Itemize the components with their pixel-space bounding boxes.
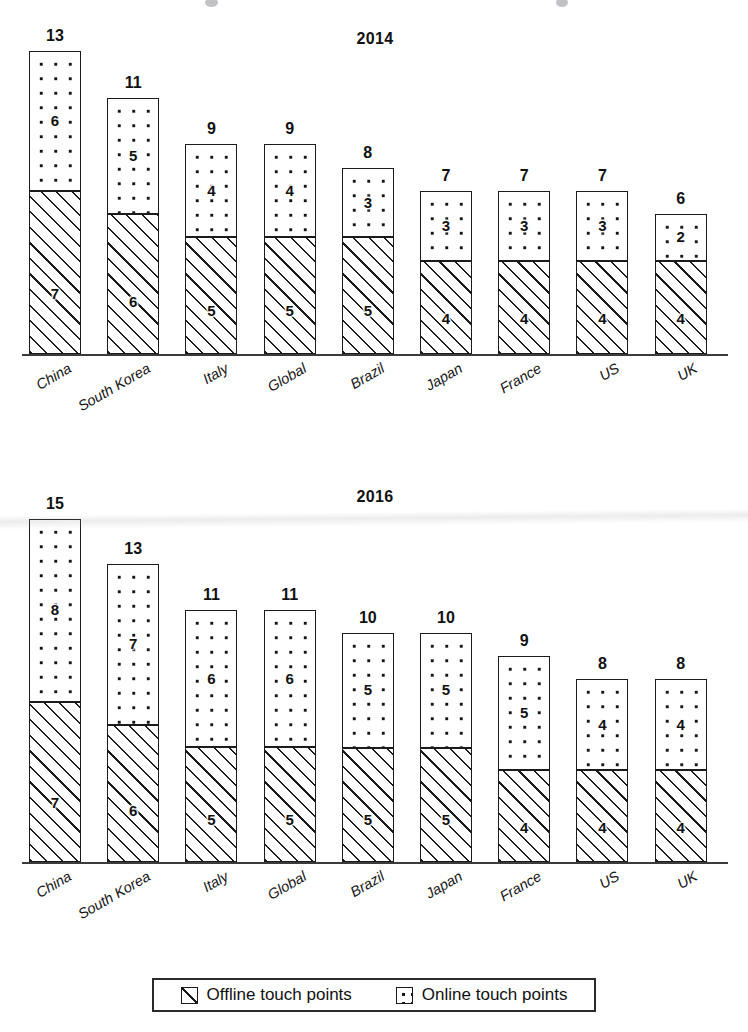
bar-global: 45 bbox=[264, 144, 316, 354]
chart-2014: 2014 6713China5611South Korea459Italy459… bbox=[0, 0, 748, 450]
chart-2016: 2016 8715China7613South Korea6511Italy65… bbox=[0, 470, 748, 920]
dot-square-icon bbox=[396, 987, 413, 1004]
bar-segment-online: 8 bbox=[29, 519, 81, 702]
bar-segment-offline-value: 4 bbox=[656, 819, 706, 836]
bar-total-label: 13 bbox=[107, 540, 159, 558]
bar-total-label: 7 bbox=[576, 167, 628, 185]
bar-segment-offline-value: 5 bbox=[186, 302, 236, 319]
bar-segment-online-value: 3 bbox=[421, 217, 471, 234]
bar-total-label: 10 bbox=[342, 609, 394, 627]
bar-segment-offline: 5 bbox=[342, 748, 394, 863]
bar-uk: 24 bbox=[655, 214, 707, 354]
bar-china: 67 bbox=[29, 51, 81, 354]
bar-total-label: 11 bbox=[107, 74, 159, 92]
bar-segment-offline: 4 bbox=[655, 261, 707, 354]
bar-segment-online-value: 3 bbox=[499, 217, 549, 234]
bar-italy: 65 bbox=[185, 610, 237, 862]
hatch-square-icon bbox=[181, 987, 198, 1004]
bar-total-label: 11 bbox=[185, 586, 237, 604]
bar-segment-offline: 7 bbox=[29, 702, 81, 862]
bar-brazil: 35 bbox=[342, 168, 394, 354]
bar-segment-online-value: 3 bbox=[577, 217, 627, 234]
chart-2016-axis bbox=[22, 862, 728, 864]
bar-total-label: 7 bbox=[420, 167, 472, 185]
bar-total-label: 9 bbox=[185, 120, 237, 138]
legend-label-offline: Offline touch points bbox=[207, 985, 352, 1005]
bar-segment-offline: 5 bbox=[185, 747, 237, 862]
bar-segment-online: 4 bbox=[655, 679, 707, 771]
bar-segment-online-value: 2 bbox=[656, 228, 706, 245]
bar-segment-offline: 6 bbox=[107, 214, 159, 354]
bar-segment-offline: 5 bbox=[264, 237, 316, 354]
bar-total-label: 9 bbox=[498, 632, 550, 650]
bar-total-label: 8 bbox=[342, 144, 394, 162]
bar-china: 87 bbox=[29, 519, 81, 863]
bar-segment-offline-value: 5 bbox=[265, 811, 315, 828]
bar-segment-offline: 4 bbox=[576, 770, 628, 862]
bar-segment-online-value: 6 bbox=[265, 670, 315, 687]
bar-segment-offline: 4 bbox=[655, 770, 707, 862]
bar-segment-offline: 4 bbox=[498, 770, 550, 862]
bar-france: 54 bbox=[498, 656, 550, 862]
bar-segment-offline: 4 bbox=[576, 261, 628, 354]
bar-uk: 44 bbox=[655, 679, 707, 862]
bar-segment-online: 6 bbox=[185, 610, 237, 747]
bar-segment-online-value: 4 bbox=[656, 716, 706, 733]
bar-global: 65 bbox=[264, 610, 316, 862]
bar-segment-offline-value: 4 bbox=[577, 310, 627, 327]
bar-segment-online: 5 bbox=[107, 98, 159, 215]
bar-italy: 45 bbox=[185, 144, 237, 354]
bar-segment-offline-value: 4 bbox=[499, 819, 549, 836]
bar-japan: 34 bbox=[420, 191, 472, 354]
bar-segment-offline-value: 7 bbox=[30, 285, 80, 302]
bar-total-label: 8 bbox=[655, 655, 707, 673]
bar-segment-online: 5 bbox=[498, 656, 550, 771]
bar-segment-offline-value: 4 bbox=[421, 310, 471, 327]
bar-brazil: 55 bbox=[342, 633, 394, 862]
bar-segment-offline-value: 4 bbox=[656, 310, 706, 327]
bar-segment-online-value: 5 bbox=[421, 681, 471, 698]
bar-total-label: 10 bbox=[420, 609, 472, 627]
bar-segment-online-value: 4 bbox=[577, 716, 627, 733]
bar-segment-offline: 7 bbox=[29, 191, 81, 354]
bar-segment-offline-value: 7 bbox=[30, 794, 80, 811]
bar-total-label: 11 bbox=[264, 586, 316, 604]
bar-total-label: 7 bbox=[498, 167, 550, 185]
bar-france: 34 bbox=[498, 191, 550, 354]
bar-total-label: 6 bbox=[655, 190, 707, 208]
bar-segment-online: 6 bbox=[264, 610, 316, 747]
chart-legend: Offline touch points Online touch points bbox=[152, 978, 596, 1012]
bar-segment-offline: 5 bbox=[342, 237, 394, 354]
bar-segment-online-value: 5 bbox=[343, 681, 393, 698]
legend-item-offline: Offline touch points bbox=[181, 985, 352, 1005]
bar-segment-online: 3 bbox=[576, 191, 628, 261]
bar-segment-online-value: 8 bbox=[30, 601, 80, 618]
bar-south-korea: 76 bbox=[107, 564, 159, 862]
bar-segment-offline-value: 6 bbox=[108, 293, 158, 310]
bar-segment-online-value: 3 bbox=[343, 194, 393, 211]
legend-item-online: Online touch points bbox=[396, 985, 568, 1005]
bar-segment-online: 3 bbox=[420, 191, 472, 261]
bar-segment-offline: 6 bbox=[107, 725, 159, 862]
chart-2016-plot: 8715China7613South Korea6511Italy6511Glo… bbox=[0, 470, 748, 920]
bar-segment-offline: 5 bbox=[185, 237, 237, 354]
bar-segment-online-value: 7 bbox=[108, 635, 158, 652]
bar-segment-online-value: 4 bbox=[265, 182, 315, 199]
bar-segment-offline-value: 4 bbox=[577, 819, 627, 836]
bar-segment-online: 7 bbox=[107, 564, 159, 724]
bar-segment-offline-value: 4 bbox=[499, 310, 549, 327]
bar-segment-online: 4 bbox=[576, 679, 628, 771]
bar-segment-online: 5 bbox=[342, 633, 394, 748]
bar-segment-offline-value: 5 bbox=[265, 302, 315, 319]
chart-2014-axis bbox=[22, 354, 728, 356]
bar-segment-online-value: 6 bbox=[186, 670, 236, 687]
bar-segment-online: 2 bbox=[655, 214, 707, 261]
bar-segment-online-value: 5 bbox=[499, 704, 549, 721]
bar-segment-online: 6 bbox=[29, 51, 81, 191]
bar-us: 44 bbox=[576, 679, 628, 862]
bar-segment-offline: 4 bbox=[498, 261, 550, 354]
bar-segment-offline-value: 5 bbox=[343, 302, 393, 319]
bar-segment-online: 3 bbox=[342, 168, 394, 238]
legend-label-online: Online touch points bbox=[422, 985, 568, 1005]
bar-segment-online-value: 4 bbox=[186, 182, 236, 199]
